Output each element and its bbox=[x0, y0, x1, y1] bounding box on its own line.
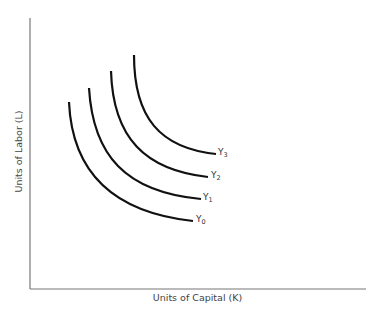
isoquant-curve-y0 bbox=[69, 102, 193, 221]
curve-label-y0: Y0 bbox=[196, 214, 206, 226]
curve-label-y3: Y3 bbox=[218, 147, 228, 159]
y-axis-label: Units of Labor (L) bbox=[13, 97, 24, 207]
isoquant-curve-y3 bbox=[134, 55, 216, 154]
curve-label-y2: Y2 bbox=[211, 170, 221, 182]
isoquant-curve-y2 bbox=[111, 71, 208, 177]
isoquant-curve-y1 bbox=[89, 88, 201, 199]
isoquant-figure: Y3 Y2 Y1 Y0 Units of Capital (K) Units o… bbox=[0, 0, 380, 317]
x-axis-label: Units of Capital (K) bbox=[0, 292, 380, 303]
curve-label-y1: Y1 bbox=[203, 192, 213, 204]
chart-canvas bbox=[0, 0, 380, 317]
